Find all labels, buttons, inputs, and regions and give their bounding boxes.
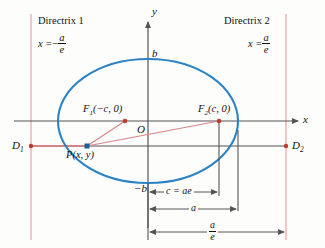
point-p-coords: (x, y)	[72, 149, 94, 160]
focus-1-label: F1(−c, 0)	[83, 104, 122, 117]
dimension-label-a-over-e: ae	[207, 221, 218, 243]
directrix-2-equation: x =ae	[248, 33, 270, 56]
directrix-1-title: Directrix 1	[38, 16, 84, 27]
x-axis-label: x	[303, 114, 308, 125]
directrix-2-marker-subscript: 2	[300, 145, 304, 154]
dimension-label-c-equals-ae: c = ae	[164, 186, 194, 196]
origin-label: O	[137, 124, 145, 135]
directrix-2-equation-lhs: x =	[248, 38, 262, 49]
directrix-1-marker-subscript: 1	[20, 145, 24, 154]
directrix-1-equation-lhs: x =	[38, 38, 52, 49]
directrix-2-marker-label: D2	[292, 140, 304, 154]
focus-2-point	[217, 119, 222, 124]
directrix-2-title: Directrix 2	[224, 16, 270, 27]
directrix-1-point	[29, 144, 33, 148]
vertex-top-label: b	[152, 48, 158, 59]
directrix-1-numerator: a	[58, 32, 65, 44]
focus-1-point	[123, 119, 128, 124]
vertex-bottom-label: −b	[134, 183, 147, 194]
directrix-2-marker-letter: D	[292, 139, 300, 151]
point-p-label: P(x, y)	[66, 150, 94, 161]
dimension-a-over-e-fraction: ae	[209, 220, 216, 242]
focus-1-coords: (−c, 0)	[93, 103, 122, 114]
dimension-label-a: a	[189, 203, 198, 213]
directrix-2-numerator: a	[262, 32, 269, 44]
directrix-2-fraction: ae	[262, 32, 269, 55]
focus-2-coords: (c, 0)	[208, 103, 230, 114]
directrix-1-marker-label: D1	[12, 140, 24, 154]
directrix-1-equation: x =−ae	[38, 33, 66, 56]
focus-2-label: F2(c, 0)	[198, 104, 230, 117]
point-p-marker	[85, 144, 90, 149]
directrix-2-denominator: e	[262, 44, 269, 55]
ellipse-directrix-diagram: Directrix 1 x =−ae Directrix 2 x =ae y x…	[0, 0, 325, 248]
directrix-2-point	[284, 144, 288, 148]
dimension-a-over-e-numerator: a	[209, 220, 216, 232]
dimension-a-over-e-denominator: e	[209, 232, 216, 243]
directrix-1-marker-letter: D	[12, 139, 20, 151]
y-axis-label: y	[152, 6, 157, 17]
directrix-1-denominator: e	[58, 44, 65, 55]
directrix-1-fraction: ae	[58, 32, 65, 55]
